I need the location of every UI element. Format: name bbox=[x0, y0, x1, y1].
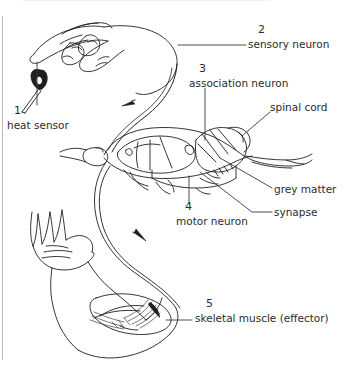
figure-canvas: 1 heat sensor 2 sensory neuron 3 associa… bbox=[0, 0, 346, 369]
heat-source-flame bbox=[22, 69, 47, 113]
label-heat-sensor: heat sensor bbox=[7, 119, 69, 131]
label-skeletal-muscle: skeletal muscle (effector) bbox=[195, 312, 329, 324]
label-synapse: synapse bbox=[274, 206, 317, 218]
label-association-neuron: association neuron bbox=[189, 77, 288, 89]
label-grey-matter: grey matter bbox=[274, 183, 336, 195]
afferent-arrow-icon bbox=[122, 100, 135, 106]
label-number-1: 1 bbox=[14, 105, 21, 117]
label-number-3: 3 bbox=[199, 63, 206, 75]
label-spinal-cord: spinal cord bbox=[270, 101, 327, 113]
label-number-4: 4 bbox=[185, 201, 192, 213]
label-number-5: 5 bbox=[206, 298, 213, 310]
label-motor-neuron: motor neuron bbox=[176, 215, 248, 227]
label-number-2: 2 bbox=[258, 24, 265, 36]
efferent-arrow-icon bbox=[133, 229, 146, 241]
label-sensory-neuron: sensory neuron bbox=[248, 38, 329, 50]
pointing-hand-drawing bbox=[30, 23, 177, 95]
